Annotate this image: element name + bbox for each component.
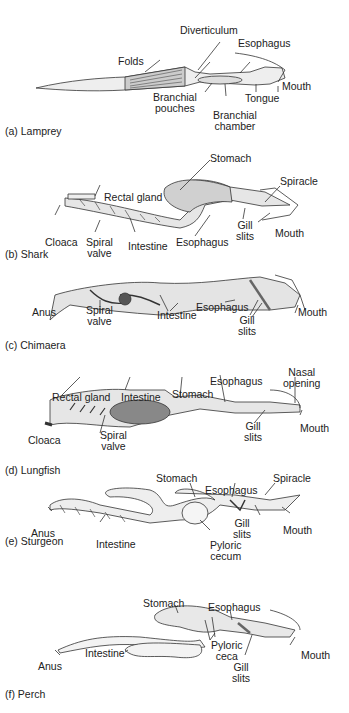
label-sturgeon-anus: Anus [31,528,55,539]
label-diverticulum: Diverticulum [180,25,238,36]
label-mouth: Mouth [282,81,311,92]
label-perch-mouth: Mouth [301,650,330,661]
panel-lamprey: Diverticulum Esophagus Folds Mouth Tongu… [0,0,349,135]
label-spiral-valve: Spiral valve [86,305,113,327]
label-stomach: Stomach [172,389,213,400]
label-cloaca: Cloaca [28,435,61,446]
label-rectal-gland: Rectal gland [52,392,110,403]
panel-lungfish: Nasal opening Esophagus Rectal gland Int… [0,365,349,475]
caption-lamprey: (a) Lamprey [5,125,62,137]
panel-chimaera: Anus Spiral valve Intestine Esophagus Gi… [0,265,349,365]
label-esophagus: Esophagus [238,38,291,49]
label-gill-slits: Gill slits [236,220,254,242]
label-sturgeon-pyloric-cecum: Pyloric cecum [210,540,242,562]
caption-chimaera: (c) Chimaera [5,339,66,351]
label-esophagus: Esophagus [196,302,249,313]
label-esophagus: Esophagus [176,237,229,248]
panel-sturgeon: (e) Sturgeon [0,475,349,565]
label-tongue: Tongue [245,93,279,104]
label-gill-slits: Gill slits [238,315,256,337]
label-branchial-pouches: Branchial pouches [153,92,197,114]
label-perch-anus: Anus [38,661,62,672]
sturgeon-gut-illustration [0,475,349,565]
label-intestine: Intestine [157,310,197,321]
label-perch-gill-slits: Gill slits [232,662,250,684]
label-spiracle: Spiracle [280,176,318,187]
label-branchial-chamber: Branchial chamber [213,110,257,132]
panel-shark: Stomach Spiracle Rectal gland Gill slits… [0,140,349,250]
label-mouth: Mouth [298,307,327,318]
label-mouth: Mouth [275,228,304,239]
lamprey-gut-illustration [0,0,349,135]
label-perch-esophagus: Esophagus [208,602,261,613]
label-perch-intestine: Intestine [85,648,125,659]
label-esophagus: Esophagus [210,376,263,387]
label-spiral-valve: Spiral valve [86,237,113,259]
panel-perch [0,595,349,713]
label-nasal-opening: Nasal opening [283,367,320,389]
label-mouth: Mouth [300,423,329,434]
label-gill-slits: Gill slits [244,421,262,443]
label-rectal-gland: Rectal gland [104,192,162,203]
label-sturgeon-esophagus: Esophagus [205,485,258,496]
label-sturgeon-stomach: Stomach [156,473,197,484]
label-intestine: Intestine [128,241,168,252]
label-anus: Anus [32,307,56,318]
label-sturgeon-intestine: Intestine [96,539,136,550]
label-intestine: Intestine [121,392,161,403]
label-sturgeon-mouth: Mouth [283,525,312,536]
label-stomach: Stomach [210,153,251,164]
label-sturgeon-spiracle: Spiracle [273,473,311,484]
caption-perch: (f) Perch [5,688,45,700]
label-spiral-valve: Spiral valve [100,430,127,452]
label-perch-pyloric-ceca: Pyloric ceca [211,640,243,662]
label-perch-stomach: Stomach [143,598,184,609]
label-cloaca: Cloaca [45,237,78,248]
caption-shark: (b) Shark [5,248,48,260]
label-folds: Folds [118,56,144,67]
perch-gut-illustration [0,595,349,713]
label-sturgeon-gill-slits: Gill slits [233,518,251,540]
